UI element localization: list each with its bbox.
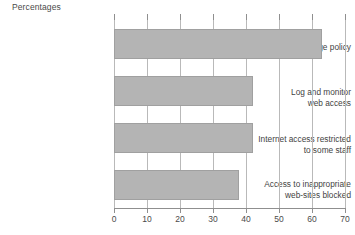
tick-top-10	[147, 14, 148, 20]
tick-top-40	[246, 14, 247, 20]
x-tick-label-40: 40	[241, 214, 250, 224]
x-tick-label-20: 20	[175, 214, 184, 224]
plot-area	[114, 20, 345, 208]
bar-chart: Percentages Acceptable usage policy Log …	[0, 0, 355, 235]
x-tick-label-0: 0	[112, 214, 117, 224]
tick-top-20	[180, 14, 181, 20]
tick-top-0	[114, 14, 115, 20]
x-tick-label-30: 30	[208, 214, 217, 224]
tick-top-30	[213, 14, 214, 20]
bar-2	[114, 123, 253, 153]
x-tick-label-70: 70	[340, 214, 349, 224]
bar-1	[114, 76, 253, 106]
chart-title: Percentages	[12, 2, 61, 12]
x-tick-label-50: 50	[274, 214, 283, 224]
bar-3	[114, 170, 239, 200]
bar-0	[114, 29, 322, 59]
tick-top-60	[312, 14, 313, 20]
tick-top-70	[345, 14, 346, 20]
x-tick-label-10: 10	[142, 214, 151, 224]
x-axis-line	[114, 208, 345, 209]
tick-top-50	[279, 14, 280, 20]
gridline-70	[345, 20, 346, 208]
tick-bottom-70	[345, 208, 346, 213]
x-tick-label-60: 60	[307, 214, 316, 224]
